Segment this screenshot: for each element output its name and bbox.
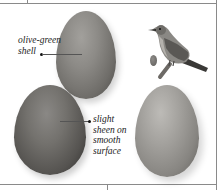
label-line: sheen on <box>93 125 127 136</box>
bottom-border <box>0 184 217 185</box>
bottom-tick <box>107 184 108 190</box>
leader-line <box>60 121 90 122</box>
egg-olive-green-top <box>56 11 116 99</box>
top-tick <box>27 0 28 4</box>
egg-light-bottom-right <box>135 85 199 177</box>
label-line: slight <box>93 114 127 125</box>
right-border <box>216 0 217 190</box>
figure-frame: olive-green shell slight sheen on smooth… <box>0 0 219 190</box>
label-line: surface <box>93 146 127 157</box>
label-slight-sheen: slight sheen on smooth surface <box>93 114 127 156</box>
leader-line <box>42 54 82 55</box>
label-line: olive-green <box>18 35 61 46</box>
pointer-dot <box>88 120 91 123</box>
top-border <box>0 3 216 4</box>
label-line: smooth <box>93 135 127 146</box>
egg-dark-bottom-left <box>14 85 86 175</box>
bird-illustration <box>146 20 210 80</box>
